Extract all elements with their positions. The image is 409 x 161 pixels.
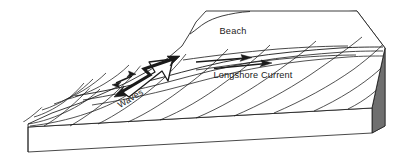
coastal-block-diagram-svg: Beach Longshore Current Waves — [0, 0, 409, 161]
label-beach: Beach — [220, 26, 247, 36]
top-surface-panel — [28, 11, 385, 127]
block-top-surface — [28, 11, 385, 127]
label-longshore-current: Longshore Current — [213, 70, 292, 80]
block-diagram-figure: Beach Longshore Current Waves — [0, 0, 409, 161]
